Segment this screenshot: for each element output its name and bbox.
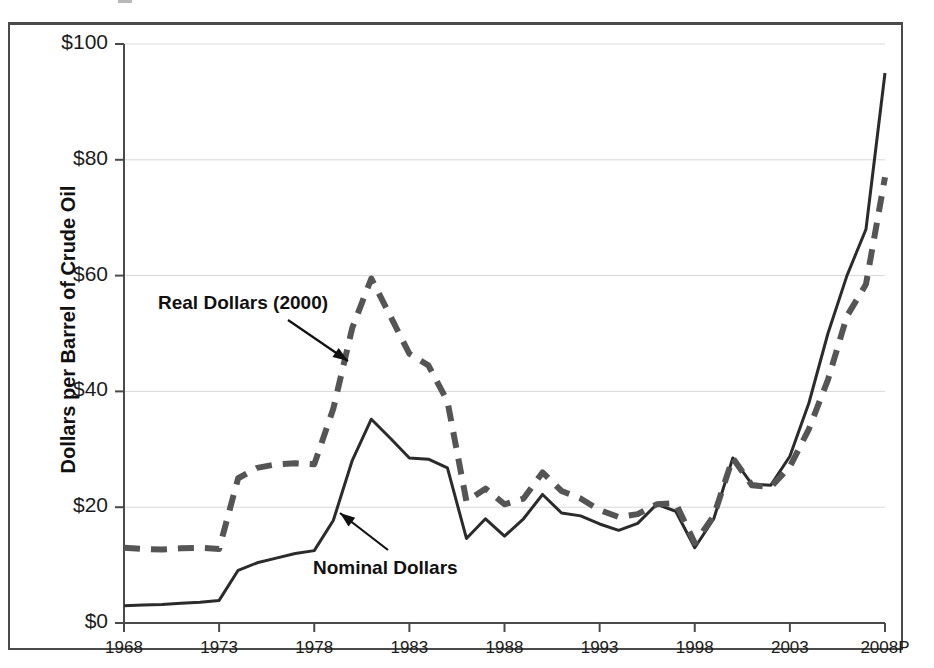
data-series	[124, 73, 885, 606]
arrow-nominal-dollars-head	[340, 513, 355, 527]
y-tick-label-100: $100	[61, 30, 108, 54]
chart-figure: $0$20$40$60$80$100 196819731978198319881…	[0, 0, 934, 668]
x-tick-label-1993: 1993	[550, 638, 650, 658]
x-tick-label-1973: 1973	[169, 638, 269, 658]
x-tick-label-1983: 1983	[359, 638, 459, 658]
x-tick-label-2003: 2003	[740, 638, 840, 658]
x-tick-label-2008P: 2008P	[835, 638, 934, 658]
x-tick-label-1978: 1978	[264, 638, 364, 658]
y-tick-label-20: $20	[73, 493, 108, 517]
annotation-arrows	[288, 320, 388, 550]
series-line-real-dollars-2000	[124, 177, 885, 549]
annotation-nominal-dollars: Nominal Dollars	[313, 557, 458, 579]
y-tick-label-80: $80	[73, 146, 108, 170]
series-line-nominal-dollars	[124, 73, 885, 606]
x-tick-label-1988: 1988	[455, 638, 555, 658]
chart-plot	[0, 0, 934, 668]
annotation-real-dollars: Real Dollars (2000)	[158, 292, 328, 314]
x-tick-label-1968: 1968	[74, 638, 174, 658]
y-tick-label-0: $0	[85, 609, 108, 633]
x-tick-label-1998: 1998	[645, 638, 745, 658]
gridlines	[124, 44, 885, 507]
y-axis-title: Dollars per Barrel of Crude Oil	[57, 170, 80, 490]
tick-marks	[115, 44, 885, 632]
